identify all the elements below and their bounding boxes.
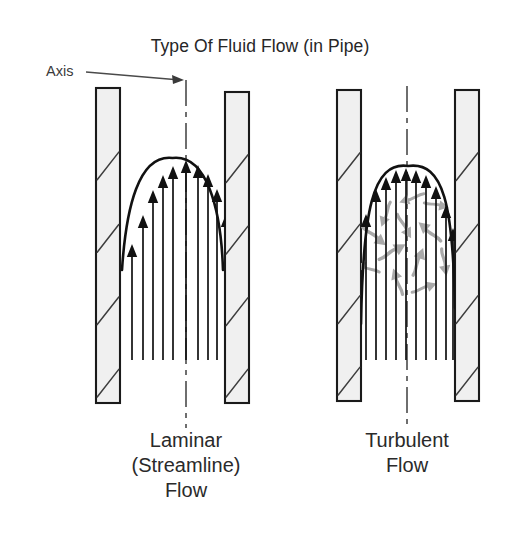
pipe-wall-right <box>225 92 249 403</box>
diagram-canvas: Type Of Fluid Flow (in Pipe) Axis Lamina… <box>0 0 521 542</box>
pipe-wall-left <box>337 90 361 401</box>
figure-title: Type Of Fluid Flow (in Pipe) <box>151 36 370 56</box>
pipe-wall-right-body <box>225 92 249 403</box>
pipe-wall-right <box>455 90 479 401</box>
caption-line: Laminar <box>150 429 223 451</box>
pipe-wall-left-body <box>96 88 120 403</box>
caption-line: (Streamline) <box>132 454 241 476</box>
fluid-flow-diagram: Type Of Fluid Flow (in Pipe) Axis Lamina… <box>0 0 521 542</box>
caption-line: Flow <box>386 454 429 476</box>
caption-line: Flow <box>165 479 208 501</box>
axis-label: Axis <box>46 63 73 79</box>
pipe-wall-right-body <box>455 90 479 401</box>
pipe-wall-left <box>96 88 120 403</box>
pipe-wall-left-body <box>337 90 361 401</box>
caption-line: Turbulent <box>365 429 449 451</box>
